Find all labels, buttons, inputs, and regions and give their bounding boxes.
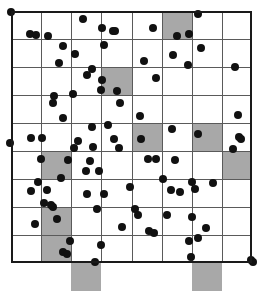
data-point bbox=[171, 156, 179, 164]
data-point bbox=[116, 99, 124, 107]
data-point bbox=[168, 125, 176, 133]
data-point bbox=[134, 211, 142, 219]
data-point bbox=[104, 121, 112, 129]
data-point bbox=[100, 41, 108, 49]
data-point bbox=[111, 27, 119, 35]
data-point bbox=[43, 186, 51, 194]
data-point bbox=[98, 76, 106, 84]
data-point bbox=[86, 157, 94, 165]
data-point bbox=[188, 213, 196, 221]
data-point bbox=[110, 135, 118, 143]
data-point bbox=[97, 241, 105, 249]
data-point bbox=[44, 32, 52, 40]
data-point bbox=[95, 167, 103, 175]
data-point bbox=[194, 234, 202, 242]
data-point bbox=[27, 187, 35, 195]
data-point bbox=[136, 112, 144, 120]
data-point bbox=[144, 155, 152, 163]
data-point bbox=[82, 167, 90, 175]
points-layer bbox=[11, 11, 252, 263]
data-point bbox=[83, 71, 91, 79]
data-point bbox=[152, 155, 160, 163]
data-point bbox=[167, 186, 175, 194]
data-point bbox=[53, 215, 61, 223]
data-point bbox=[202, 224, 210, 232]
data-point bbox=[38, 134, 46, 142]
data-point bbox=[6, 139, 14, 147]
data-point bbox=[66, 237, 74, 245]
data-point bbox=[152, 74, 160, 82]
data-point bbox=[69, 90, 77, 98]
data-point bbox=[149, 24, 157, 32]
data-point bbox=[229, 145, 237, 153]
data-point bbox=[31, 220, 39, 228]
data-point bbox=[209, 179, 217, 187]
data-point bbox=[163, 211, 171, 219]
data-point bbox=[176, 188, 184, 196]
data-point bbox=[49, 99, 57, 107]
data-point bbox=[93, 205, 101, 213]
data-point bbox=[185, 30, 193, 38]
data-point bbox=[37, 155, 45, 163]
data-point bbox=[50, 92, 58, 100]
quadrat-plot-area bbox=[11, 11, 252, 263]
data-point bbox=[184, 61, 192, 69]
shaded-quadrat-cell bbox=[71, 263, 101, 291]
data-point bbox=[70, 144, 78, 152]
data-point bbox=[118, 223, 126, 231]
data-point bbox=[169, 51, 177, 59]
data-point bbox=[40, 199, 48, 207]
data-point bbox=[59, 114, 67, 122]
data-point bbox=[83, 190, 91, 198]
data-point bbox=[185, 237, 193, 245]
data-point bbox=[97, 86, 105, 94]
data-point bbox=[57, 174, 65, 182]
data-point bbox=[27, 134, 35, 142]
data-point bbox=[63, 250, 71, 258]
data-point bbox=[150, 229, 158, 237]
data-point bbox=[115, 144, 123, 152]
data-point bbox=[55, 59, 63, 67]
data-point bbox=[98, 24, 106, 32]
data-point bbox=[32, 31, 40, 39]
data-point bbox=[59, 42, 67, 50]
data-point bbox=[49, 203, 57, 211]
data-point bbox=[159, 175, 167, 183]
data-point bbox=[237, 135, 245, 143]
data-point bbox=[140, 57, 148, 65]
data-point bbox=[126, 183, 134, 191]
data-point bbox=[113, 87, 121, 95]
data-point bbox=[137, 135, 145, 143]
data-point bbox=[194, 10, 202, 18]
shaded-quadrat-cell bbox=[192, 263, 222, 291]
data-point bbox=[79, 15, 87, 23]
data-point bbox=[249, 258, 257, 266]
data-point bbox=[187, 253, 195, 261]
data-point bbox=[64, 156, 72, 164]
data-point bbox=[173, 32, 181, 40]
data-point bbox=[191, 185, 199, 193]
data-point bbox=[234, 111, 242, 119]
data-point bbox=[197, 44, 205, 52]
data-point bbox=[34, 178, 42, 186]
data-point bbox=[100, 190, 108, 198]
data-point bbox=[231, 63, 239, 71]
data-point bbox=[7, 8, 15, 16]
data-point bbox=[71, 50, 79, 58]
data-point bbox=[89, 143, 97, 151]
data-point bbox=[194, 130, 202, 138]
data-point bbox=[88, 123, 96, 131]
